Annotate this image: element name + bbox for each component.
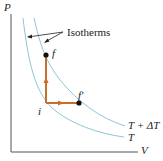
point-f bbox=[43, 52, 48, 57]
point-i-label: i bbox=[38, 106, 41, 117]
arrowhead-icon bbox=[44, 39, 50, 44]
right-arrow-icon bbox=[58, 101, 64, 106]
point-f-label: f bbox=[52, 48, 55, 59]
v-axis-label: V bbox=[141, 145, 148, 156]
point-f-prime bbox=[76, 100, 81, 105]
pv-diagram bbox=[0, 0, 163, 161]
isotherm-t-plus-dt-label: T + ΔT bbox=[128, 120, 159, 131]
isotherms-label: Isotherms bbox=[67, 27, 110, 38]
arrowhead-icon bbox=[27, 35, 32, 39]
p-axis-label: P bbox=[4, 2, 11, 13]
isotherm-t-label: T bbox=[128, 132, 134, 143]
point-f-prime-label: f′ bbox=[78, 90, 83, 101]
up-arrow-icon bbox=[44, 77, 49, 83]
